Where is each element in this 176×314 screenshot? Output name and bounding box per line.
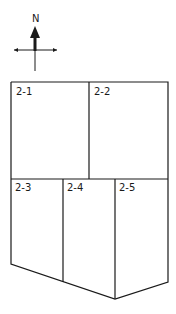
parcel-outlines (11, 82, 168, 299)
north-label: N (32, 13, 39, 24)
north-compass-icon: N (14, 13, 57, 71)
parcel-2-4-label: 2-4 (67, 182, 83, 193)
parcel-2-3-label: 2-3 (15, 182, 31, 193)
parcel-2-2-label: 2-2 (94, 86, 110, 97)
parcel-map: N 2-1 2-2 2-3 2-4 2-5 (0, 0, 176, 314)
parcel-2-1-label: 2-1 (16, 86, 32, 97)
parcel-2-5-label: 2-5 (119, 182, 135, 193)
